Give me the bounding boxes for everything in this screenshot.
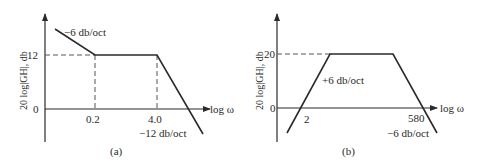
y-axis-label-b: 20 log|GH|, db [254,51,265,110]
x-axis-label-b: log ω [440,102,464,114]
figure-b: 20 0 2 580 log ω +6 db/oct −6 db/oct 20 … [254,14,464,158]
y-tick-0-b: 0 [270,102,276,114]
figure-a: 12 0 0.2 4.0 log ω −6 db/oct −12 db/oct … [18,14,234,158]
caption-a: (a) [110,145,123,158]
y-axis-label-a: 20 log|GH|, db [18,51,29,110]
x-tick-580: 580 [408,112,425,124]
x-axis-label-a: log ω [210,103,234,115]
y-tick-20: 20 [264,48,276,60]
magnitude-curve-a [55,29,203,134]
x-tick-2: 2 [304,113,310,125]
x-tick-4.0: 4.0 [148,113,162,125]
bode-diagrams: 12 0 0.2 4.0 log ω −6 db/oct −12 db/oct … [0,0,479,165]
slope-label-plus6: +6 db/oct [322,74,364,86]
y-tick-0-a: 0 [33,103,39,115]
caption-b: (b) [342,145,355,158]
slope-label-minus6: −6 db/oct [64,26,106,38]
slope-label-minus12: −12 db/oct [139,127,186,139]
slope-label-minus6-b: −6 db/oct [387,127,429,139]
x-tick-0.2: 0.2 [86,113,100,125]
